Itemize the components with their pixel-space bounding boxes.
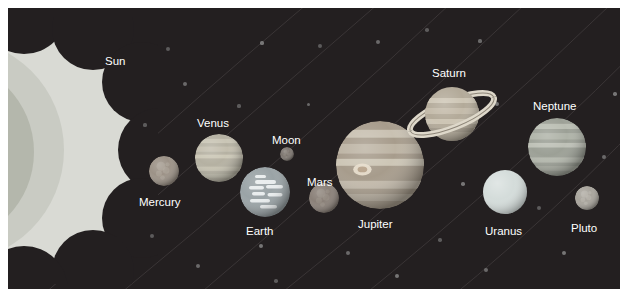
label-uranus: Uranus bbox=[485, 226, 522, 238]
star bbox=[166, 47, 170, 51]
star bbox=[376, 40, 380, 44]
sun bbox=[8, 16, 158, 284]
star bbox=[484, 268, 488, 272]
label-venus: Venus bbox=[197, 118, 229, 130]
label-moon: Moon bbox=[272, 135, 301, 147]
planet-earth bbox=[240, 167, 290, 217]
star bbox=[346, 251, 350, 255]
star bbox=[478, 39, 481, 42]
label-saturn: Saturn bbox=[432, 68, 466, 80]
planet-mercury bbox=[149, 156, 179, 186]
label-mars: Mars bbox=[307, 177, 333, 189]
star bbox=[307, 103, 310, 106]
planet-pluto bbox=[575, 186, 599, 210]
planet-uranus bbox=[483, 170, 527, 214]
space-canvas: SunMercuryVenusEarthMoonMarsJupiterUranu… bbox=[8, 8, 620, 289]
sun-graphic bbox=[8, 16, 158, 284]
star bbox=[260, 41, 263, 44]
star bbox=[183, 82, 188, 87]
planet-venus bbox=[195, 134, 243, 182]
label-jupiter: Jupiter bbox=[358, 219, 393, 231]
star bbox=[395, 274, 400, 279]
label-mercury: Mercury bbox=[139, 197, 181, 209]
label-sun: Sun bbox=[105, 56, 125, 68]
saturn bbox=[404, 66, 500, 162]
label-neptune: Neptune bbox=[533, 101, 576, 113]
star bbox=[259, 244, 263, 248]
star bbox=[438, 238, 441, 241]
star bbox=[613, 92, 616, 95]
star bbox=[537, 206, 541, 210]
star bbox=[196, 264, 200, 268]
star bbox=[562, 251, 566, 255]
star bbox=[318, 44, 322, 48]
solar-system-illustration: SunMercuryVenusEarthMoonMarsJupiterUranu… bbox=[0, 0, 628, 298]
star bbox=[143, 123, 146, 126]
star bbox=[461, 182, 465, 186]
star bbox=[425, 28, 429, 32]
planet-neptune bbox=[528, 118, 586, 176]
star bbox=[237, 104, 240, 107]
label-pluto: Pluto bbox=[571, 223, 597, 235]
star bbox=[602, 155, 606, 159]
saturn-graphic bbox=[404, 66, 500, 162]
label-earth: Earth bbox=[246, 226, 274, 238]
star bbox=[274, 279, 278, 283]
planet-moon bbox=[280, 147, 294, 161]
